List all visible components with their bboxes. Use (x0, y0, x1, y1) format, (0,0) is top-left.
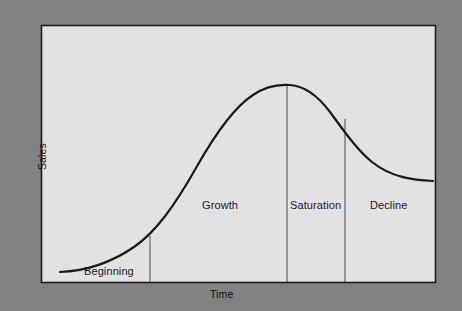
x-axis-label: Time (210, 288, 233, 300)
region-label-saturation: Saturation (290, 199, 341, 211)
region-label-growth: Growth (202, 199, 238, 211)
y-axis-label: Sales (36, 143, 48, 170)
plot-area-frame (42, 26, 436, 283)
product-life-cycle-chart: Sales Time Beginning Growth Saturation D… (0, 0, 462, 311)
chart-canvas (0, 0, 462, 311)
region-label-beginning: Beginning (84, 265, 134, 277)
region-label-decline: Decline (370, 199, 407, 211)
